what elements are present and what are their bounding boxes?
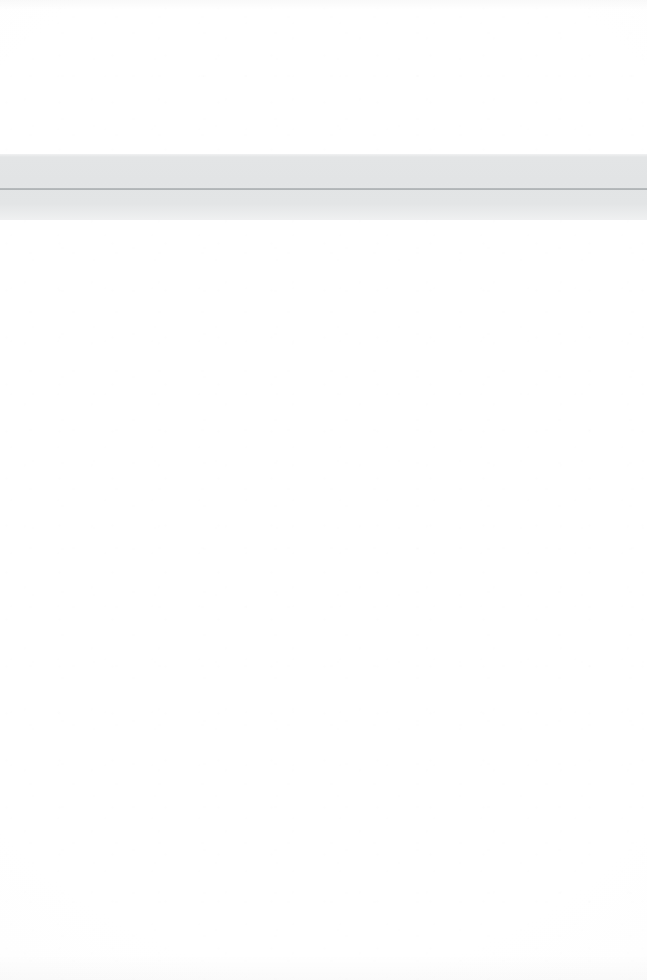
lower-blank-region (0, 220, 647, 980)
horizontal-gray-band (0, 154, 647, 220)
scanned-page (0, 0, 647, 980)
horizontal-rule-line (0, 188, 647, 190)
upper-blank-region (0, 0, 647, 154)
